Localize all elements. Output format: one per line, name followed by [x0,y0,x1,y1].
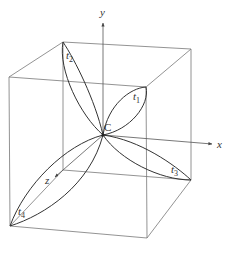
curve-label-t4: t4 [18,205,25,220]
curve-label-t3: t3 [171,163,178,178]
curve-label-t1: t1 [133,90,140,105]
curve-label-t2: t2 [66,49,73,64]
y-axis-label: y [99,6,105,18]
x-axis [103,135,212,144]
curves [10,42,191,226]
center-label: C [104,121,111,133]
cube-diagram: y x z C t1 t2 t3 t4 [0,0,234,256]
center-point [102,134,105,137]
z-axis-label: z [44,174,50,186]
diagram: y x z C t1 t2 t3 t4 [0,0,234,256]
x-axis-label: x [216,138,222,150]
